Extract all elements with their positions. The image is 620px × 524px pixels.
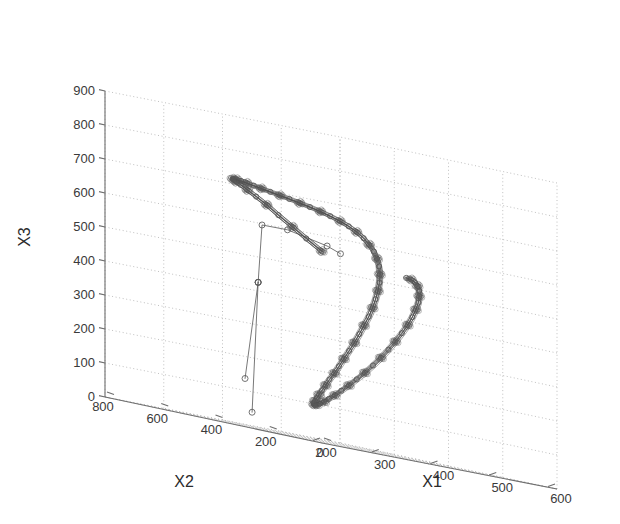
x-tick-label: 300 [374,457,396,472]
y-tick-label: 200 [255,434,277,449]
axis-title-x1: X1 [422,473,442,490]
axis-title-x3: X3 [16,227,33,247]
y-tick-label: 800 [92,399,114,414]
x-tick-label: 500 [491,480,513,495]
x-tick-label: 200 [315,445,337,460]
z-tick-label: 400 [73,253,95,268]
z-tick-label: 300 [73,287,95,302]
z-tick-label: 700 [73,151,95,166]
axis-title-x2: X2 [174,473,194,490]
z-tick-label: 100 [73,355,95,370]
z-tick-label: 200 [73,321,95,336]
figure-canvas: 0100200300400500600700800900800600400200… [0,0,620,524]
z-tick-label: 900 [73,83,95,98]
x-tick-label: 600 [550,491,572,506]
z-tick-label: 500 [73,219,95,234]
plot-svg: 0100200300400500600700800900800600400200… [0,0,620,524]
z-tick-label: 800 [73,117,95,132]
z-tick-label: 600 [73,185,95,200]
y-tick-label: 400 [201,422,223,437]
y-tick-label: 600 [146,411,168,426]
